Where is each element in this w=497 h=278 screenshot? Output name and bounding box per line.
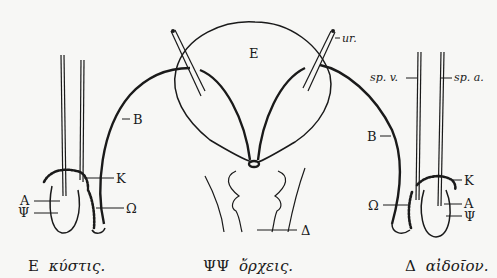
label-ureter: ur. (342, 32, 357, 45)
label-bladder: E (249, 46, 259, 61)
right-vas-deferens (320, 65, 400, 224)
caption-center: ΨΨ ὄρχεις. (203, 257, 293, 275)
left-vas-deferens (100, 68, 190, 224)
left-epididymis-tail (88, 190, 94, 228)
bladder-group (175, 22, 331, 167)
left-ureter (171, 29, 205, 96)
caption-center-word: ὄρχεις. (239, 257, 293, 275)
right-label-omega: Ω (368, 198, 379, 213)
left-label-omega: Ω (126, 201, 137, 216)
right-epididymis-head (417, 176, 455, 190)
bladder-left-lobe (175, 70, 252, 162)
right-label-spa: sp. a. (454, 71, 484, 84)
left-testis-group (44, 55, 105, 233)
right-label-duct: B (367, 129, 377, 144)
bladder-inner-left (200, 70, 250, 160)
caption-left-symbol: E (28, 257, 39, 275)
left-label-psi: Ψ (18, 205, 29, 220)
anatomical-diagram: E ur. Δ B K Ω A Ψ sp. v. sp. a. B K Ω A … (0, 0, 497, 278)
penis-outline (205, 168, 305, 232)
right-epididymis-tail (409, 192, 412, 228)
right-label-K: K (464, 173, 474, 188)
left-testis (50, 186, 79, 233)
caption-left: E κύστις. (28, 257, 105, 275)
caption-right-word: αἰδοῖον. (426, 257, 489, 275)
right-testis (421, 190, 450, 237)
caption-left-word: κύστις. (48, 257, 106, 275)
bladder-inner-right (258, 68, 305, 160)
bladder-right-lobe (258, 75, 331, 162)
diagram-canvas: E ur. Δ B K Ω A Ψ sp. v. sp. a. B K Ω A … (0, 0, 497, 278)
left-label-duct: B (133, 112, 143, 127)
caption-center-symbol: ΨΨ (203, 257, 229, 275)
right-label-psi: Ψ (464, 209, 475, 224)
urethra-opening (249, 161, 259, 167)
caption-right-symbol: Δ (405, 257, 416, 275)
label-penis: Δ (301, 223, 310, 238)
right-omega-loop (392, 224, 410, 233)
right-label-spv: sp. v. (370, 71, 398, 84)
right-testis-group (392, 52, 455, 237)
left-label-K: K (116, 171, 126, 186)
caption-right: Δ αἰδοῖον. (405, 257, 489, 275)
